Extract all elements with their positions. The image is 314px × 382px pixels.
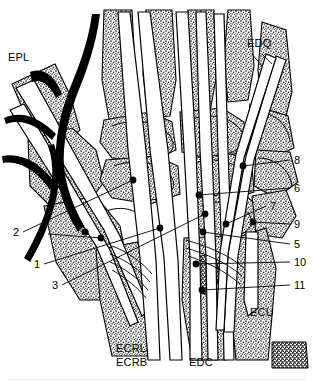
callout-number-11: 11: [294, 280, 305, 291]
callout-number-5: 5: [294, 239, 300, 250]
leader-dot-10: [193, 261, 200, 268]
tendon-label-edc: EDC: [189, 357, 213, 368]
leader-dot-3: [202, 211, 209, 218]
leader-dot-4: [98, 235, 105, 242]
leader-dot-7: [223, 221, 230, 228]
anatomy-illustration: [0, 0, 314, 382]
bottom-divider: [8, 379, 306, 380]
leader-dot-5: [200, 229, 207, 236]
leader-dot-1: [157, 225, 164, 232]
tendon-label-edq: EDQ: [247, 38, 271, 49]
figure-canvas: EPLEDQECUECRLECRBEDC1234567891011: [0, 0, 314, 382]
leader-dot-9: [250, 219, 257, 226]
callout-number-9: 9: [294, 219, 300, 230]
callout-number-3: 3: [52, 280, 58, 291]
tendon-label-ecu: ECU: [250, 307, 274, 318]
tendon-label-epl: EPL: [8, 52, 29, 63]
leader-dot-11: [199, 287, 206, 294]
tendon-label-ecrb: ECRB: [116, 357, 147, 368]
callout-number-4: 4: [38, 229, 44, 240]
callout-number-7: 7: [270, 201, 276, 212]
callout-number-10: 10: [294, 257, 306, 268]
callout-number-6: 6: [294, 183, 300, 194]
tendon-label-ecrl: ECRL: [116, 343, 146, 354]
callout-number-8: 8: [294, 155, 300, 166]
leader-dot-8: [240, 163, 247, 170]
callout-number-1: 1: [34, 259, 40, 270]
leader-dot-2: [130, 177, 137, 184]
leader-dot-6: [196, 192, 203, 199]
callout-number-2: 2: [13, 227, 19, 238]
